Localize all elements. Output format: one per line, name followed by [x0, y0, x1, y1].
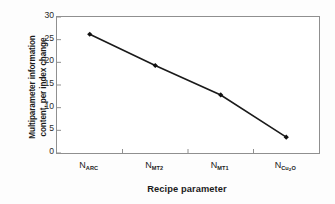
y-axis-tick-label: 10 — [30, 102, 54, 111]
y-axis-tick-label: 5 — [30, 124, 54, 133]
x-axis-tick-label: NARC — [79, 160, 98, 170]
series-line-chart — [57, 17, 319, 153]
x-axis-tick-label: NCu2O — [275, 160, 296, 170]
data-point-marker — [153, 63, 158, 68]
x-axis-tick-labels: NARCNMT2NMT1NCu2O — [56, 160, 318, 184]
chart-figure: Multiparameter information content, per … — [0, 0, 335, 204]
data-point-marker — [87, 32, 92, 37]
y-axis-tick-labels: 051015202530 — [30, 0, 54, 170]
x-axis-tick-label: NMT1 — [211, 160, 229, 170]
x-axis-tick-label: NMT2 — [145, 160, 163, 170]
y-axis-tick-label: 20 — [30, 56, 54, 65]
series-line — [90, 34, 287, 137]
y-axis-title: Multiparameter information content, per … — [0, 0, 32, 170]
x-axis-title: Recipe parameter — [56, 184, 318, 194]
y-axis-tick-label: 0 — [30, 147, 54, 156]
y-axis-tick-label: 15 — [30, 79, 54, 88]
y-axis-tick-label: 25 — [30, 34, 54, 43]
y-axis-tick-label: 30 — [30, 11, 54, 20]
plot-area — [56, 16, 320, 154]
